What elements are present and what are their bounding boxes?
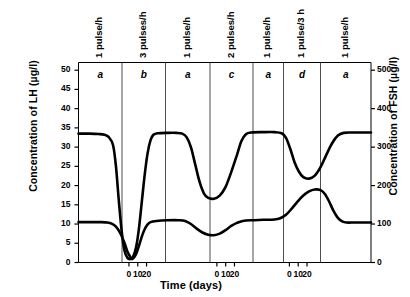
y-axis-right-title: Concentration of FSH (µg/l) [387,31,399,221]
y-left-tick-label: 20 [49,180,71,190]
panel-letter-label: b [132,69,156,80]
panel-header-label: 3 pulses/h [137,12,148,58]
x-tick-label: 20 [137,269,157,279]
y-left-tick-marks [75,70,79,262]
x-tick-label: 20 [224,269,244,279]
y-axis-left-title: Concentration of LH (µg/l) [27,31,39,221]
figure-container: 1 pulse/h3 pulses/h1 pulse/h2 pulses/h1 … [0,0,410,297]
y-left-tick-label: 5 [49,237,71,247]
panel-header-label: 2 pulses/h [225,12,236,58]
panel-header-label: 1 pulse/3 h [295,9,306,58]
y-left-tick-label: 50 [49,64,71,74]
panel-letter-label: a [88,69,112,80]
y-right-tick-marks [371,70,375,262]
panel-letter-label: d [290,69,314,80]
panel-header-label: 1 pulse/h [339,17,350,58]
y-left-tick-label: 10 [49,218,71,228]
y-left-tick-label: 0 [49,257,71,267]
panel-header-label: 1 pulse/h [261,17,272,58]
x-tick-marks [129,263,307,267]
y-left-tick-label: 30 [49,141,71,151]
panel-header-group: 1 pulse/h3 pulses/h1 pulse/h2 pulses/h1 … [0,0,410,58]
panel-header-label: 1 pulse/h [181,17,192,58]
y-left-tick-label: 25 [49,160,71,170]
panel-letter-label: a [176,69,200,80]
x-axis-title: Time (days) [160,279,222,291]
y-left-tick-label: 35 [49,122,71,132]
y-right-tick-label: 0 [377,257,403,267]
y-left-tick-label: 15 [49,199,71,209]
y-left-tick-label: 45 [49,83,71,93]
panel-header-label: 1 pulse/h [93,17,104,58]
panel-letter-label: c [220,69,244,80]
y-left-tick-label: 40 [49,103,71,113]
panel-letter-label: a [334,69,358,80]
x-tick-label: 20 [297,269,317,279]
panel-letter-label: a [256,69,280,80]
